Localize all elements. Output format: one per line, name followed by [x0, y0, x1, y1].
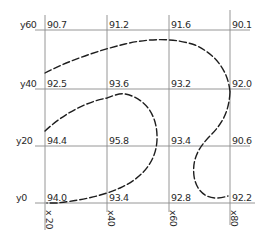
value-x20-y40: 92.5 [47, 78, 67, 89]
y-axis-labels: y60 y40 y20 y0 [16, 19, 37, 203]
value-x40-y60: 91.2 [109, 19, 129, 30]
value-x80-y20: 90.6 [232, 135, 252, 146]
y-label-40: y40 [20, 78, 37, 89]
value-x60-y0: 92.8 [171, 192, 191, 203]
x-label-60: x60 [168, 210, 179, 227]
value-x60-y40: 93.2 [171, 78, 191, 89]
value-x40-y0: 93.4 [109, 192, 129, 203]
value-x40-y40: 93.6 [109, 78, 129, 89]
value-x80-y40: 92.0 [232, 78, 252, 89]
y-label-60: y60 [20, 19, 37, 30]
x-label-80: x80 [229, 210, 240, 227]
value-x20-y60: 90.7 [47, 19, 67, 30]
value-x80-y0: 92.2 [232, 192, 252, 203]
y-label-20: y20 [16, 135, 33, 146]
s-contour [194, 92, 230, 198]
value-x20-y20: 94.4 [47, 135, 67, 146]
x-label-40: x40 [106, 210, 117, 227]
value-x40-y20: 95.8 [109, 135, 129, 146]
outer-contour [45, 40, 230, 92]
value-x60-y20: 93.4 [171, 135, 191, 146]
y-label-0: y0 [16, 192, 27, 203]
x-axis-labels: x 20 x40 x60 x80 [44, 210, 240, 229]
inner-contour [45, 94, 157, 203]
value-x20-y0: 94.0 [47, 192, 67, 203]
value-x80-y60: 90.1 [232, 19, 252, 30]
contour-diagram: y60 y40 y20 y0 x 20 x40 x60 x80 90.7 91.… [0, 0, 270, 245]
value-x60-y60: 91.6 [171, 19, 191, 30]
x-label-20: x 20 [44, 210, 55, 229]
contours [45, 40, 230, 203]
